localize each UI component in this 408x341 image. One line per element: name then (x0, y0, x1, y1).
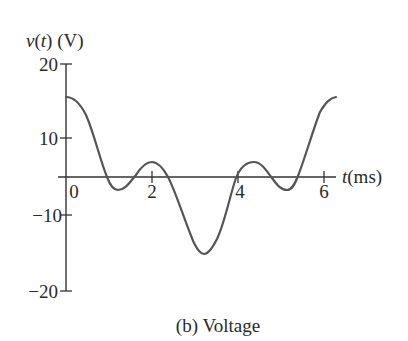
y-tick-label-neg20: −20 (28, 281, 58, 302)
x-tick-label-0: 0 (69, 181, 79, 202)
chart-caption: (b) Voltage (176, 315, 260, 337)
x-axis-title: t(ms) (342, 166, 382, 188)
x-axis-title-unit: (ms) (347, 166, 382, 188)
y-tick-label-neg10: −10 (32, 205, 62, 226)
x-tick-label-6: 6 (319, 181, 329, 202)
y-axis-title: v(t) (V) (26, 30, 84, 52)
x-tick-label-2: 2 (147, 181, 157, 202)
y-tick-label-20: 20 (39, 54, 58, 75)
y-axis-title-unit: (V) (52, 30, 83, 52)
voltage-waveform (66, 97, 336, 254)
x-tick-label-4: 4 (235, 181, 245, 202)
voltage-chart: 20 10 −10 −20 0 2 4 6 v(t) (V) t(ms) (b)… (0, 0, 408, 341)
y-tick-label-10: 10 (39, 128, 58, 149)
